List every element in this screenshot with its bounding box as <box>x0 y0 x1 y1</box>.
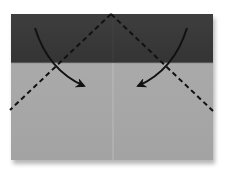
fold-diagram-canvas <box>0 0 226 174</box>
origami-diagram: Fold the top corners down to the center … <box>0 0 226 174</box>
